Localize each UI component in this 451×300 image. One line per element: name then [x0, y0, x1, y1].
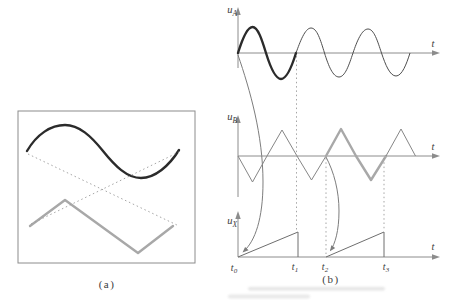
panel-a: (a) [18, 111, 195, 291]
screen-box [18, 111, 195, 263]
ub-t-axis-arrow-icon [432, 153, 440, 158]
trigger-arrowhead-t2-icon [330, 245, 335, 251]
t0-label: t0 [231, 262, 238, 275]
ux-sweep-ramp-2 [326, 232, 384, 257]
ua-t-axis-arrow-icon [432, 50, 440, 55]
ux-y-axis-arrow-icon [235, 211, 240, 219]
plot-ub: uB t [227, 111, 440, 197]
trigger-arrow-ua-to-t0 [238, 55, 263, 251]
ua-t-label: t [432, 38, 436, 49]
screen-triangle-trace [30, 200, 173, 253]
figure-canvas: (a) uA t uB t [0, 0, 451, 300]
ub-t-label: t [432, 141, 436, 152]
screen-sine-trace [27, 125, 179, 178]
ub-triangle-tail [386, 129, 416, 156]
waveform-diagram: (a) uA t uB t [0, 0, 451, 300]
ub-axis-label: uB [227, 111, 237, 125]
plot-ux: uX t [227, 211, 440, 260]
retrace-dotted-line-1 [28, 154, 179, 226]
retrace-dotted-line-2 [31, 152, 179, 224]
time-mark-labels: t0 t1 t2 t3 [231, 261, 390, 275]
panel-b-caption: (b) [322, 273, 339, 286]
trigger-arrows [238, 55, 339, 252]
cropped-caption-blur [228, 287, 385, 299]
ux-t-label: t [432, 241, 436, 252]
panel-a-caption: (a) [99, 278, 116, 291]
t1-label: t1 [292, 261, 298, 274]
plot-ua: uA t [227, 4, 440, 79]
panel-b: uA t uB t uX t [227, 4, 440, 286]
ua-axis-label: uA [227, 4, 237, 18]
t3-label: t3 [383, 261, 390, 274]
ub-triangle-highlighted-cycle [326, 129, 386, 180]
trigger-arrowhead-t0-icon [243, 247, 249, 252]
ux-sweep-ramp-1 [238, 232, 298, 257]
ux-axis-label: uX [227, 215, 237, 229]
ux-t-axis-arrow-icon [432, 254, 440, 259]
trigger-arrow-ub-to-t2 [326, 157, 339, 251]
